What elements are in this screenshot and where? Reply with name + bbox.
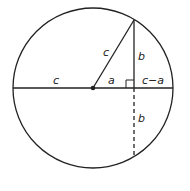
circle-diagram: c c b a c−a b (0, 0, 190, 191)
label-foot-to-edge: c−a (142, 74, 164, 87)
label-lower-half-chord: b (138, 112, 145, 125)
right-angle-marker (126, 80, 134, 88)
label-left-radius: c (53, 74, 59, 87)
label-center-to-foot: a (108, 74, 115, 87)
center-point (91, 86, 96, 91)
label-slant-radius: c (103, 46, 109, 59)
label-upper-half-chord: b (138, 50, 145, 63)
